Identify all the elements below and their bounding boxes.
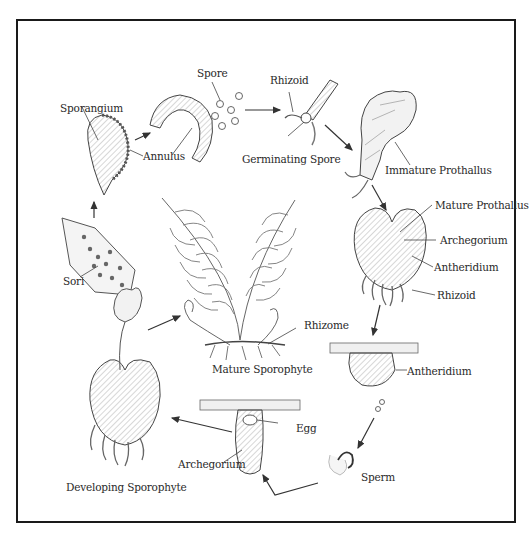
mature-prothallus-drawing [354, 205, 436, 306]
label-rhizoid-right: Rhizoid [437, 290, 476, 301]
label-sporangium: Sporangium [60, 103, 123, 114]
label-annulus: Annulus [143, 151, 185, 162]
label-antheridium-right: Antheridium [434, 262, 499, 273]
label-sori: Sori [63, 276, 84, 287]
developing-sporophyte-drawing [90, 288, 160, 466]
sperm-drawing [329, 452, 353, 475]
label-sperm: Sperm [361, 472, 395, 483]
label-antheridium-lower: Antheridium [407, 366, 472, 377]
label-mature-prothallus: Mature Prothallus [435, 200, 529, 211]
mature-sporophyte-drawing [162, 198, 296, 360]
label-immature-prothallus: Immature Prothallus [385, 165, 492, 176]
label-spore: Spore [197, 68, 227, 79]
label-germinating-spore: Germinating Spore [242, 154, 340, 165]
label-archegorium-right: Archegorium [440, 235, 507, 246]
label-developing-sporophyte: Developing Sporophyte [66, 482, 187, 493]
lower-antheridium-drawing [330, 343, 418, 412]
label-rhizome: Rhizome [304, 320, 349, 331]
label-archegorium-lower: Archegorium [178, 459, 245, 470]
immature-prothallus-drawing [345, 91, 416, 198]
spores-drawing [212, 82, 243, 130]
label-rhizoid-top: Rhizoid [270, 75, 309, 86]
label-egg: Egg [296, 423, 317, 434]
sporangium-drawing [82, 107, 128, 195]
germinating-spore-drawing [285, 80, 338, 145]
label-mature-sporophyte: Mature Sporophyte [212, 364, 313, 375]
